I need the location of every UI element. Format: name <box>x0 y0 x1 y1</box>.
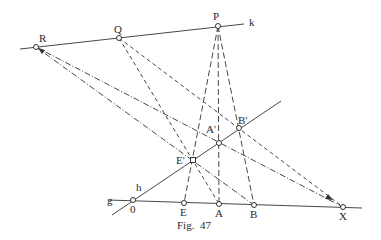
label-Q: Q <box>114 23 122 35</box>
figure-caption: Fig. 47 <box>177 219 211 231</box>
line-P-A <box>218 26 219 204</box>
line-k <box>20 24 244 49</box>
line-Q-X <box>119 38 343 207</box>
label-E-prime: E' <box>176 154 185 166</box>
point-R <box>34 45 39 50</box>
label-R: R <box>39 32 47 44</box>
point-P <box>216 24 221 29</box>
point-X <box>341 205 346 210</box>
label-g: g <box>107 194 113 206</box>
point-O <box>131 198 136 203</box>
point-B <box>252 203 257 208</box>
line-Q-A <box>119 38 219 204</box>
point-E-prime <box>191 158 196 163</box>
line-R-X <box>36 47 343 207</box>
point-A <box>217 202 222 207</box>
point-Q <box>117 36 122 41</box>
label-P: P <box>213 10 219 22</box>
point-A-prime <box>217 141 222 146</box>
label-A-prime: A' <box>206 123 216 135</box>
label-O: 0 <box>130 203 136 215</box>
label-k: k <box>249 16 255 28</box>
arrow-head-to-R <box>38 48 45 54</box>
label-E: E <box>180 206 187 218</box>
label-B-prime: B' <box>238 114 247 126</box>
line-P-E <box>184 26 218 203</box>
line-h <box>112 101 281 215</box>
label-A: A <box>215 207 223 219</box>
label-h: h <box>136 181 142 193</box>
line-R-B <box>36 47 254 205</box>
projective-construction-diagram: R Q P k B' A' E' h g 0 E A B X Fig. 47 <box>0 0 381 240</box>
label-B: B <box>250 208 257 220</box>
point-B-prime <box>237 126 242 131</box>
line-g <box>108 200 362 208</box>
point-E <box>182 201 187 206</box>
arrow-head-to-X <box>325 194 333 200</box>
line-P-B <box>218 26 254 205</box>
label-X: X <box>339 210 347 222</box>
